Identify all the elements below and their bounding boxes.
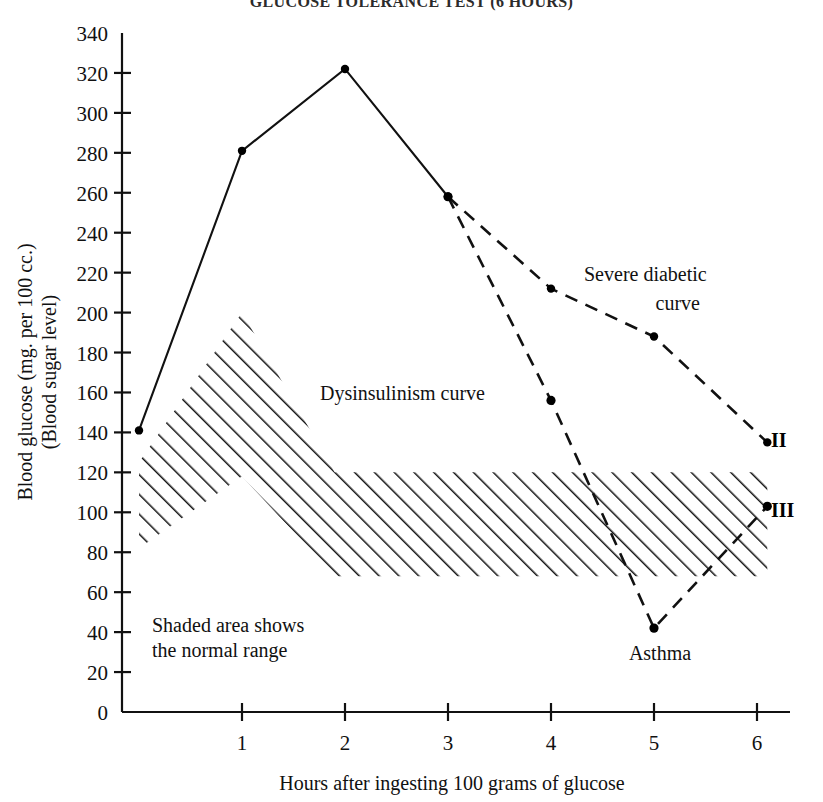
annotation-shaded-line2: the normal range bbox=[152, 639, 288, 662]
x-axis-title: Hours after ingesting 100 grams of gluco… bbox=[279, 772, 625, 795]
data-point bbox=[238, 147, 246, 155]
endpoint-label-iii: III bbox=[771, 499, 795, 521]
data-point bbox=[547, 284, 555, 292]
y-tick-label: 200 bbox=[77, 302, 109, 326]
data-point bbox=[341, 65, 349, 73]
data-point bbox=[649, 624, 658, 633]
y-tick-label: 180 bbox=[77, 342, 109, 366]
y-tick-label: 240 bbox=[77, 222, 109, 246]
y-axis-title-line1: Blood glucose (mg. per 100 cc.) bbox=[14, 243, 37, 500]
series-severe-diabetic bbox=[444, 193, 772, 447]
y-tick-label: 80 bbox=[87, 541, 108, 565]
annotation-severe-diabetic-line2: curve bbox=[656, 292, 701, 314]
y-tick-label: 320 bbox=[77, 62, 109, 86]
x-tick-label: 1 bbox=[237, 731, 248, 755]
x-tick-label: 2 bbox=[340, 731, 351, 755]
y-tick-label: 160 bbox=[77, 381, 109, 405]
y-tick-label: 220 bbox=[77, 262, 109, 286]
data-point bbox=[650, 332, 658, 340]
x-tick-label: 4 bbox=[546, 731, 557, 755]
endpoint-label-ii: II bbox=[771, 429, 787, 451]
series-common-solid bbox=[135, 65, 452, 435]
chart-plot-area: 0204060801001201401601802002202402602803… bbox=[0, 0, 823, 802]
y-tick-label: 120 bbox=[77, 461, 109, 485]
annotation-asthma: Asthma bbox=[629, 642, 691, 664]
y-tick-label: 260 bbox=[77, 182, 109, 206]
y-tick-label: 280 bbox=[77, 142, 109, 166]
data-point bbox=[443, 192, 452, 201]
y-tick-label: 0 bbox=[98, 701, 109, 725]
x-axis-ticks: 123456 bbox=[237, 703, 763, 755]
data-point bbox=[135, 426, 143, 434]
y-tick-label: 140 bbox=[77, 421, 109, 445]
y-tick-label: 20 bbox=[87, 661, 108, 685]
x-tick-label: 3 bbox=[443, 731, 454, 755]
normal-range-band bbox=[139, 313, 767, 577]
y-tick-label: 300 bbox=[77, 102, 109, 126]
annotation-shaded-line1: Shaded area shows bbox=[152, 614, 304, 636]
y-tick-label: 100 bbox=[77, 501, 109, 525]
annotation-dysinsulinism: Dysinsulinism curve bbox=[320, 382, 485, 405]
x-tick-label: 5 bbox=[649, 731, 660, 755]
y-tick-label: 60 bbox=[87, 581, 108, 605]
y-axis-title-line2: (Blood sugar level) bbox=[38, 295, 61, 449]
data-point bbox=[546, 396, 555, 405]
annotation-severe-diabetic-line1: Severe diabetic bbox=[584, 263, 707, 285]
y-tick-label: 40 bbox=[87, 621, 108, 645]
glucose-tolerance-chart: GLUCOSE TOLERANCE TEST (6 HOURS) 0204060… bbox=[0, 0, 823, 802]
y-tick-label: 340 bbox=[77, 22, 109, 46]
x-tick-label: 6 bbox=[752, 731, 763, 755]
